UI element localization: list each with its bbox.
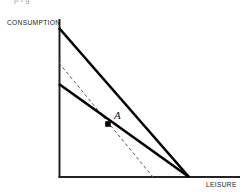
original-budget-line (59, 84, 189, 177)
point-a-marker (105, 121, 111, 127)
x-axis-label: LEISURE (206, 181, 237, 188)
point-a-label: A (114, 109, 121, 121)
budget-line-figure: p t g CONSUMPTION LEISURE A (0, 0, 248, 192)
plot-canvas (0, 0, 248, 192)
y-axis-label: CONSUMPTION (7, 19, 60, 26)
new-budget-line (59, 28, 189, 177)
